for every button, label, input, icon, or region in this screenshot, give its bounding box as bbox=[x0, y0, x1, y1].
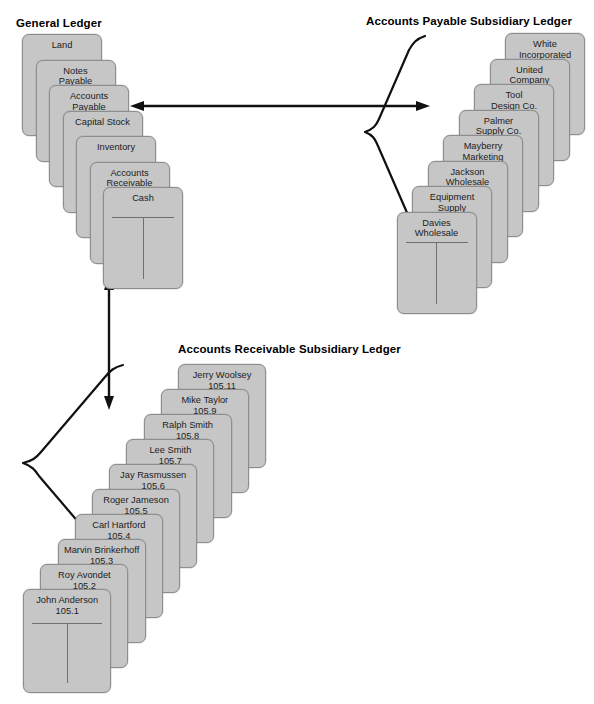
ledger-account-label: Jackson Wholesale bbox=[432, 167, 504, 188]
ledger-account-card[interactable]: John Anderson105.1 bbox=[23, 589, 111, 693]
ledger-account-label: Capital Stock bbox=[67, 117, 139, 128]
ledger-account-label: Mayberry Marketing bbox=[447, 141, 519, 162]
ledger-account-label: United Company bbox=[494, 65, 566, 86]
ledger-account-label: Ralph Smith bbox=[148, 420, 228, 431]
ledger-account-label: Inventory bbox=[80, 142, 152, 153]
ledger-account-label: Land bbox=[26, 40, 98, 51]
ledger-account-label: Roy Avondet bbox=[44, 570, 124, 581]
ledger-account-label: Notes Payable bbox=[40, 66, 112, 87]
ledger-account-label: John Anderson bbox=[27, 595, 107, 606]
ledger-account-label: Jay Rasmussen bbox=[113, 470, 193, 481]
ledger-account-label: Palmer Supply Co. bbox=[463, 116, 535, 137]
t-account-vertical-rule bbox=[143, 217, 144, 279]
ledger-account-card[interactable]: Cash bbox=[103, 187, 183, 289]
ledger-account-label: Davies Wholesale bbox=[401, 218, 473, 239]
accounts-payable-ledger-title: Accounts Payable Subsidiary Ledger bbox=[366, 15, 572, 27]
ledger-account-label: Accounts Payable bbox=[53, 91, 125, 112]
ledger-account-number: 105.1 bbox=[27, 606, 107, 617]
ledger-account-card[interactable]: Davies Wholesale bbox=[397, 212, 477, 314]
ledger-account-label: White Incorporated bbox=[509, 39, 581, 60]
ledger-relationship-diagram: General Ledger LandNotes PayableAccounts… bbox=[0, 0, 594, 704]
t-account-vertical-rule bbox=[436, 242, 437, 304]
ledger-account-label: Cash bbox=[107, 193, 179, 204]
ledger-account-label: Jerry Woolsey bbox=[182, 370, 262, 381]
ledger-account-label: Accounts Receivable bbox=[94, 168, 166, 189]
ledger-account-label: Tool Design Co. bbox=[478, 90, 550, 111]
connector-general-ledger-to-accounts-payable bbox=[130, 96, 430, 116]
ledger-account-label: Carl Hartford bbox=[79, 520, 159, 531]
ledger-account-label: Roger Jameson bbox=[96, 495, 176, 506]
t-account-vertical-rule bbox=[67, 623, 68, 683]
ledger-account-label: Marvin Brinkerhoff bbox=[62, 545, 142, 556]
ledger-account-label: Lee Smith bbox=[130, 445, 210, 456]
connector-general-ledger-to-accounts-receivable bbox=[99, 276, 119, 410]
ledger-account-label: Equipment Supply bbox=[416, 192, 488, 213]
ledger-account-label: Mike Taylor bbox=[165, 395, 245, 406]
accounts-receivable-ledger-title: Accounts Receivable Subsidiary Ledger bbox=[178, 343, 401, 355]
general-ledger-title: General Ledger bbox=[16, 17, 102, 29]
